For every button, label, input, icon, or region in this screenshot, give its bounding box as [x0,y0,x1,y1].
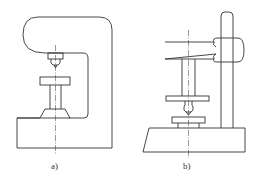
technical-drawing [0,0,268,183]
figure-a-caption: a) [51,161,58,171]
figure-a-c-frame [17,17,112,155]
figure-b-column-stand [143,12,245,158]
figure-b-caption: b) [183,161,191,171]
